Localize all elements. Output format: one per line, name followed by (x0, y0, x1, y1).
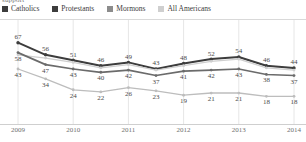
data-label: 22 (97, 94, 105, 102)
legend-swatch-icon (158, 6, 164, 12)
legend-label: Protestants (61, 5, 94, 13)
x-axis-tick-label: 2014 (287, 126, 301, 134)
data-point (210, 69, 213, 72)
data-label: 23 (153, 93, 161, 101)
data-point (17, 68, 20, 71)
data-point (237, 92, 240, 95)
legend-item-catholics: Catholics (2, 5, 39, 13)
data-point (265, 73, 268, 76)
x-axis-tick-label: 2012 (177, 126, 191, 134)
x-axis-tick-label: 2013 (232, 126, 246, 134)
legend-swatch-icon (2, 6, 8, 12)
chart-legend: Catholics Protestants Mormons All Americ… (2, 5, 224, 13)
legend-label: All Americans (167, 5, 211, 13)
data-label: 43 (70, 71, 78, 79)
data-label: 43 (15, 71, 23, 79)
data-label: 19 (180, 97, 188, 105)
data-point (44, 57, 47, 60)
chart-svg: 6756514649434852544644584743404237414243… (0, 20, 306, 124)
data-label: 54 (235, 47, 243, 55)
data-label: 67 (15, 33, 23, 41)
data-label: 46 (97, 56, 105, 64)
data-point (210, 60, 213, 63)
data-label: 18 (263, 98, 271, 106)
data-point (182, 64, 185, 67)
data-label: 56 (42, 45, 50, 53)
data-point (265, 66, 268, 69)
data-label: 52 (208, 50, 216, 58)
legend-swatch-icon (107, 6, 113, 12)
data-label: 42 (125, 72, 133, 80)
legend-swatch-icon (52, 6, 58, 12)
legend-label: Mormons (116, 5, 145, 13)
data-label: 26 (125, 90, 133, 98)
line-chart-plot: 6756514649434852544644584743404237414243… (0, 20, 306, 124)
data-point (293, 69, 296, 72)
data-point (155, 74, 158, 77)
data-label: 51 (70, 51, 78, 59)
data-point (155, 89, 158, 92)
data-point (182, 70, 185, 73)
data-label: 34 (42, 81, 50, 89)
x-axis-labels: 200920102011201220132014 (0, 126, 306, 140)
x-axis-line (0, 124, 306, 125)
data-point (237, 58, 240, 61)
data-point (44, 77, 47, 80)
data-point (293, 74, 296, 77)
data-point (99, 66, 102, 69)
data-point (99, 91, 102, 94)
data-point (265, 95, 268, 98)
data-label: 47 (42, 67, 50, 75)
x-axis-tick-label: 2009 (11, 126, 25, 134)
data-point (293, 95, 296, 98)
legend-item-mormons: Mormons (107, 5, 145, 13)
data-point (237, 68, 240, 71)
data-point (72, 61, 75, 64)
data-label: 46 (263, 56, 271, 64)
data-label: 48 (180, 54, 188, 62)
legend-label: Catholics (11, 5, 39, 13)
data-label: 37 (153, 78, 161, 86)
data-point (72, 88, 75, 91)
data-point (16, 41, 19, 44)
data-point (99, 71, 102, 74)
data-label: 40 (97, 74, 105, 82)
data-point (210, 92, 213, 95)
data-label: 49 (125, 53, 133, 61)
data-point (182, 94, 185, 97)
data-point (72, 68, 75, 71)
data-point (44, 53, 47, 56)
data-point (17, 51, 20, 54)
data-label: 43 (235, 71, 243, 79)
data-label: 44 (291, 58, 299, 66)
data-label: 18 (291, 98, 299, 106)
x-axis-tick-label: 2011 (122, 126, 136, 134)
legend-item-all-americans: All Americans (158, 5, 211, 13)
data-point (127, 86, 130, 89)
legend-item-protestants: Protestants (52, 5, 94, 13)
data-label: 43 (153, 59, 161, 67)
x-axis-tick-label: 2010 (66, 126, 80, 134)
data-label: 37 (291, 78, 299, 86)
data-label: 42 (208, 72, 216, 80)
data-label: 58 (15, 55, 23, 63)
data-point (155, 69, 158, 72)
data-point (44, 63, 47, 66)
data-label: 21 (235, 95, 243, 103)
data-label: 38 (263, 76, 271, 84)
data-point (127, 69, 130, 72)
data-label: 24 (70, 92, 78, 100)
data-label: 41 (180, 73, 188, 81)
data-label: 21 (208, 95, 216, 103)
data-point (127, 63, 130, 66)
